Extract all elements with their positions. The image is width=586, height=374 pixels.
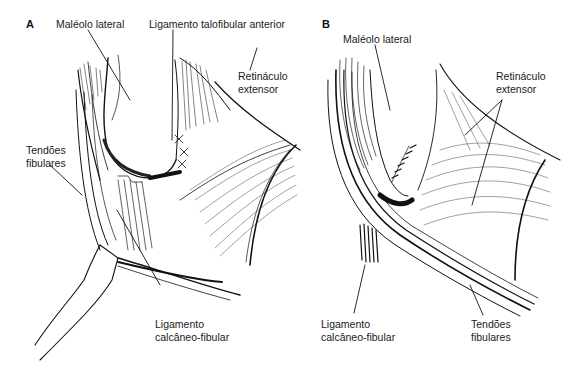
- panel-a-letter: A: [26, 18, 34, 30]
- panel-a-label-atfl: Ligamento talofibular anterior: [149, 18, 285, 31]
- panel-b-label-retinaculum-1: Retináculo: [496, 70, 546, 83]
- panel-a-label-cfl-2: calcâneo-fibular: [155, 331, 229, 344]
- panel-b-label-tendons-1: Tendões: [471, 318, 511, 331]
- panel-a-label-malleolus: Maléolo lateral: [56, 18, 124, 31]
- panel-a-label-tendons-2: fibulares: [26, 157, 66, 170]
- panel-b-label-tendons-2: fibulares: [471, 331, 511, 344]
- panel-b-label-cfl-1: Ligamento: [321, 318, 370, 331]
- panel-a-label-retinaculum-2: extensor: [238, 83, 278, 96]
- panel-a-label-retinaculum-1: Retináculo: [238, 70, 288, 83]
- panel-b-letter: B: [322, 18, 330, 30]
- panel-b-label-retinaculum-2: extensor: [496, 83, 536, 96]
- panel-b-label-cfl-2: calcâneo-fibular: [321, 331, 395, 344]
- panel-b-label-malleolus: Maléolo lateral: [343, 33, 411, 46]
- panel-a-label-cfl-1: Ligamento: [155, 318, 204, 331]
- panel-a-label-tendons-1: Tendões: [26, 144, 66, 157]
